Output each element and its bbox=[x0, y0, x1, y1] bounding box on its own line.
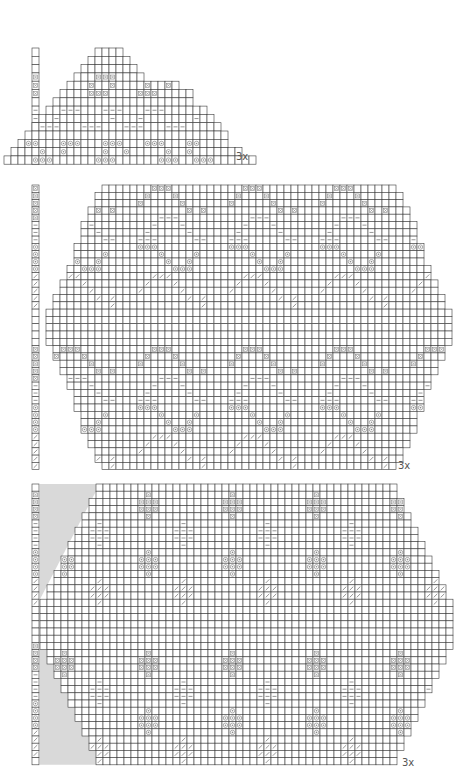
chart-cell bbox=[201, 642, 208, 649]
chart-cell bbox=[340, 360, 347, 367]
chart-cell bbox=[375, 360, 382, 367]
chart-cell bbox=[368, 316, 375, 323]
chart-cell bbox=[130, 419, 137, 426]
chart-cell bbox=[270, 346, 277, 353]
chart-cell bbox=[124, 758, 131, 765]
chart-cell bbox=[222, 729, 229, 736]
chart-cell bbox=[137, 338, 144, 345]
chart-cell bbox=[320, 700, 327, 707]
chart-cell bbox=[327, 585, 334, 592]
chart-cell bbox=[123, 426, 130, 433]
chart-cell bbox=[187, 657, 194, 664]
chart-cell bbox=[47, 592, 54, 599]
chart-cell bbox=[250, 614, 257, 621]
chart-cell bbox=[424, 324, 431, 331]
chart-cell bbox=[271, 707, 278, 714]
repeat-label-chart-2: 3x bbox=[398, 460, 410, 471]
chart-cell bbox=[173, 657, 180, 664]
chart-cell bbox=[75, 534, 82, 541]
chart-cell bbox=[292, 556, 299, 563]
chart-cell bbox=[389, 389, 396, 396]
chart-cell bbox=[82, 570, 89, 577]
chart-cell bbox=[256, 448, 263, 455]
chart-cell bbox=[215, 506, 222, 513]
chart-cell bbox=[382, 404, 389, 411]
chart-cell bbox=[383, 520, 390, 527]
chart-cell bbox=[165, 397, 172, 404]
chart-cell bbox=[165, 309, 172, 316]
chart-cell bbox=[347, 397, 354, 404]
chart-cell bbox=[355, 714, 362, 721]
chart-cell bbox=[291, 419, 298, 426]
chart-cell bbox=[425, 614, 432, 621]
chart-cell bbox=[158, 455, 165, 462]
chart-cell bbox=[242, 448, 249, 455]
chart-cell bbox=[221, 295, 228, 302]
chart-cell bbox=[89, 650, 96, 657]
chart-cell bbox=[249, 448, 256, 455]
chart-cell bbox=[285, 642, 292, 649]
key-cell bbox=[32, 484, 39, 491]
chart-cell bbox=[229, 686, 236, 693]
chart-cell bbox=[194, 585, 201, 592]
chart-cell bbox=[382, 433, 389, 440]
chart-cell bbox=[159, 628, 166, 635]
chart-cell bbox=[89, 556, 96, 563]
chart-cell bbox=[285, 700, 292, 707]
chart-cell bbox=[355, 498, 362, 505]
chart-cell bbox=[354, 411, 361, 418]
chart-cell bbox=[390, 671, 397, 678]
chart-cell bbox=[305, 426, 312, 433]
chart-cell bbox=[305, 419, 312, 426]
chart-cell bbox=[292, 628, 299, 635]
chart-cell bbox=[103, 549, 110, 556]
chart-cell bbox=[82, 513, 89, 520]
chart-cell bbox=[158, 441, 165, 448]
chart-cell bbox=[249, 353, 256, 360]
chart-cell bbox=[46, 331, 53, 338]
chart-cell bbox=[81, 309, 88, 316]
chart-cell bbox=[348, 621, 355, 628]
chart-cell bbox=[271, 520, 278, 527]
chart-cell bbox=[298, 346, 305, 353]
chart-cell bbox=[362, 678, 369, 685]
chart-cell bbox=[144, 411, 151, 418]
chart-cell bbox=[152, 686, 159, 693]
chart-cell bbox=[187, 484, 194, 491]
chart-cell bbox=[166, 635, 173, 642]
chart-cell bbox=[109, 441, 116, 448]
chart-cell bbox=[299, 491, 306, 498]
chart-cell bbox=[285, 592, 292, 599]
chart-cell bbox=[152, 635, 159, 642]
chart-cell bbox=[271, 542, 278, 549]
chart-cell bbox=[382, 441, 389, 448]
chart-cell bbox=[327, 707, 334, 714]
chart-cell bbox=[249, 426, 256, 433]
chart-cell bbox=[369, 542, 376, 549]
chart-cell bbox=[117, 556, 124, 563]
chart-cell bbox=[306, 635, 313, 642]
chart-cell bbox=[313, 484, 320, 491]
chart-cell bbox=[236, 707, 243, 714]
chart-cell bbox=[410, 368, 417, 375]
chart-cell bbox=[208, 484, 215, 491]
chart-cell bbox=[74, 309, 81, 316]
chart-cell bbox=[271, 736, 278, 743]
chart-cell bbox=[383, 614, 390, 621]
chart-cell bbox=[243, 693, 250, 700]
chart-cell bbox=[180, 491, 187, 498]
chart-cell bbox=[285, 686, 292, 693]
chart-cell bbox=[369, 750, 376, 757]
chart-cell bbox=[221, 346, 228, 353]
chart-cell bbox=[417, 302, 424, 309]
chart-cell bbox=[131, 484, 138, 491]
chart-cell bbox=[75, 642, 82, 649]
chart-cell bbox=[361, 331, 368, 338]
chart-cell bbox=[389, 433, 396, 440]
chart-cell bbox=[242, 353, 249, 360]
chart-cell bbox=[124, 506, 131, 513]
chart-cell bbox=[110, 563, 117, 570]
chart-cell bbox=[215, 722, 222, 729]
chart-cell bbox=[347, 462, 354, 469]
chart-cell bbox=[424, 353, 431, 360]
